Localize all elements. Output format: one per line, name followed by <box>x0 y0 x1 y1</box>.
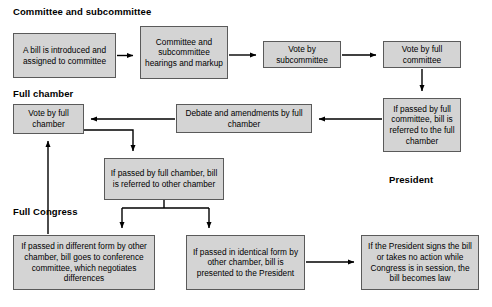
node-vote-subcommittee-label: Vote by subcommittee <box>267 44 337 65</box>
section-label-full-congress: Full Congress <box>13 206 78 217</box>
node-identical-form-label: If passed in identical form by other cha… <box>190 247 301 279</box>
node-vote-full-chamber[interactable]: Vote by full chamber <box>13 104 84 134</box>
section-label-full-chamber: Full chamber <box>13 88 73 99</box>
node-committee-hearings-label: Committee and subcommittee hearings and … <box>144 37 224 69</box>
node-debate-amendments-label: Debate and amendments by full chamber <box>180 108 308 129</box>
node-vote-full-committee[interactable]: Vote by full committee <box>383 41 461 68</box>
flowchart-canvas: Committee and subcommittee Full chamber … <box>0 0 492 307</box>
node-bill-introduced[interactable]: A bill is introduced and assigned to com… <box>13 33 116 78</box>
node-debate-amendments[interactable]: Debate and amendments by full chamber <box>176 104 312 133</box>
node-becomes-law-label: If the President signs the bill or takes… <box>365 241 475 283</box>
node-committee-hearings[interactable]: Committee and subcommittee hearings and … <box>140 26 228 79</box>
node-identical-form[interactable]: If passed in identical form by other cha… <box>186 235 305 290</box>
node-vote-full-chamber-label: Vote by full chamber <box>17 108 80 129</box>
node-passed-full-chamber-label: If passed by full chamber, bill is refer… <box>108 168 220 189</box>
connector-passed-chamber-fork <box>122 200 209 228</box>
section-label-committee-and-subcommittee: Committee and subcommittee <box>13 6 151 17</box>
node-different-form[interactable]: If passed in different form by other cha… <box>13 235 155 290</box>
node-vote-subcommittee[interactable]: Vote by subcommittee <box>263 41 341 68</box>
node-passed-committee-label: If passed by full committee, bill is ref… <box>387 104 457 146</box>
node-bill-introduced-label: A bill is introduced and assigned to com… <box>17 45 112 66</box>
node-passed-committee[interactable]: If passed by full committee, bill is ref… <box>383 98 461 152</box>
section-label-president: President <box>389 174 433 185</box>
connector-vote-chamber-to-passed-chamber <box>84 130 133 151</box>
node-different-form-label: If passed in different form by other cha… <box>17 241 151 283</box>
node-becomes-law[interactable]: If the President signs the bill or takes… <box>361 235 479 290</box>
node-vote-full-committee-label: Vote by full committee <box>387 44 457 65</box>
node-passed-full-chamber[interactable]: If passed by full chamber, bill is refer… <box>104 158 224 200</box>
